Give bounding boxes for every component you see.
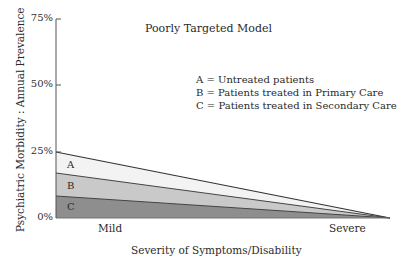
y-tick-0: 0%: [23, 211, 53, 222]
y-tick-50: 50%: [23, 78, 53, 89]
y-tick-25: 25%: [23, 145, 53, 156]
region-label-a: A: [67, 159, 74, 170]
region-label-c: C: [67, 201, 75, 212]
legend-item-b: B = Patients treated in Primary Care: [196, 86, 397, 99]
y-tick-75: 75%: [23, 12, 53, 23]
y-axis-label: Psychiatric Morbidity : Annual Prevalenc…: [14, 32, 26, 232]
region-label-b: B: [67, 180, 74, 191]
legend-item-c: C = Patients treated in Secondary Care: [196, 99, 397, 112]
x-axis-label: Severity of Symptoms/Disability: [131, 244, 302, 256]
x-tick-mild: Mild: [98, 222, 122, 234]
legend: A = Untreated patients B = Patients trea…: [196, 73, 397, 112]
legend-item-a: A = Untreated patients: [196, 73, 397, 86]
x-tick-severe: Severe: [329, 222, 366, 234]
chart-title: Poorly Targeted Model: [145, 22, 272, 35]
